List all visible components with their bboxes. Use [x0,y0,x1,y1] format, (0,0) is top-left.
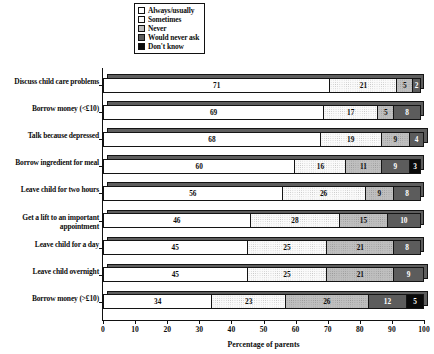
x-tick [167,320,168,324]
bar-segment-value: 23 [245,297,252,306]
x-tick-label: 30 [196,325,204,334]
legend-item-4: Don't know [138,42,199,51]
bar-segment-value: 19 [347,135,354,144]
legend-swatch-icon [138,16,145,23]
bar-segment-value: 25 [283,243,290,252]
legend-swatch-icon [138,25,145,32]
legend-swatch-icon [138,7,145,14]
bar-segment-value: 4 [415,135,419,144]
x-tick-label: 10 [131,325,139,334]
x-tick-label: 70 [324,325,332,334]
chart-legend: Always/usuallySometimesNeverWould never … [134,3,205,54]
bar-segment-0: 71 [104,79,330,92]
bar-segment-2: 26 [286,295,369,308]
legend-item-1: Sometimes [138,15,199,24]
bar-segment-3: 10 [388,214,420,227]
bar-segment-value: 9 [394,162,398,171]
x-tick [231,320,232,324]
legend-item-3: Would never ask [138,33,199,42]
bar-segment-1: 28 [251,214,340,227]
bar-segment-4: 3 [410,160,420,173]
x-tick [392,320,393,324]
bar-row: Borrow ingredient for meal60161193 [103,155,424,182]
bar-segment-value: 45 [172,270,179,279]
bar-segment-value: 3 [413,162,417,171]
bar-segment-4: 5 [407,295,423,308]
x-tick [296,320,297,324]
x-tick-label: 20 [163,325,171,334]
bar-row: Discuss child care problems712152 [103,74,424,101]
stacked-bar: 4525219 [103,267,424,282]
bar-row: Borrow money (>£10)342326125 [103,291,424,318]
bar-segment-value: 25 [283,270,290,279]
x-axis-title: Percentage of parents [103,340,424,349]
stacked-bar: 46281510 [103,213,421,228]
legend-label: Don't know [148,42,184,51]
y-axis-category-label: Discuss child care problems [0,77,99,86]
bar-row: Get a lift to an important appointment46… [103,210,424,237]
bar-segment-3: 8 [394,241,420,254]
bar-segment-2: 9 [366,187,395,200]
x-tick-label: 40 [228,325,236,334]
bar-segment-0: 45 [104,268,248,281]
bar-segment-2: 15 [340,214,388,227]
bar-segment-value: 28 [291,216,298,225]
bar-segment-2: 5 [378,106,394,119]
legend-label: Always/usually [148,6,194,15]
x-tick-label: 100 [418,325,429,334]
bar-segment-value: 60 [196,162,203,171]
stacked-bar: 4525218 [103,240,421,255]
x-tick [328,320,329,324]
bar-segment-3: 9 [382,160,411,173]
x-tick [360,320,361,324]
bar-segment-value: 71 [213,81,220,90]
x-tick [264,320,265,324]
bar-segment-value: 56 [189,189,196,198]
y-axis-category-label: Get a lift to an important appointment [0,213,99,231]
bar-segment-0: 68 [104,133,321,146]
bar-segment-0: 56 [104,187,283,200]
y-axis-category-label: Leave child for two hours [0,185,99,194]
stacked-bar: 691758 [103,105,421,120]
legend-item-0: Always/usually [138,6,199,15]
legend-label: Would never ask [148,33,199,42]
bar-segment-0: 46 [104,214,251,227]
bar-segment-value: 16 [317,162,324,171]
bar-segment-value: 5 [413,297,417,306]
bar-segment-2: 5 [397,79,413,92]
bar-segment-3: 2 [413,79,419,92]
legend-swatch-icon [138,43,145,50]
legend-item-2: Never [138,24,199,33]
bar-segment-value: 12 [384,297,391,306]
bar-segment-value: 21 [357,270,364,279]
bar-row: Borrow money (<£10)691758 [103,101,424,128]
bar-segment-0: 60 [104,160,295,173]
y-axis-category-label: Talk because depressed [0,131,99,140]
bar-row: Leave child for two hours562698 [103,182,424,209]
bar-segment-value: 15 [360,216,367,225]
bar-segment-2: 9 [382,133,411,146]
bar-segment-value: 69 [210,108,217,117]
bar-segment-value: 5 [384,108,388,117]
bar-segment-1: 26 [283,187,366,200]
x-tick [135,320,136,324]
bar-segment-value: 8 [405,189,409,198]
stacked-bar: 342326125 [103,294,424,309]
bar-segment-0: 45 [104,241,248,254]
bar-row: Leave child overnight4525219 [103,264,424,291]
bar-segment-0: 34 [104,295,212,308]
bar-segment-3: 12 [369,295,407,308]
legend-label: Never [148,24,166,33]
stacked-bar: 681994 [103,132,424,147]
bar-segment-3: 9 [394,268,423,281]
bar-segment-value: 45 [172,243,179,252]
bar-segment-2: 21 [327,241,394,254]
y-axis-category-label: Borrow money (>£10) [0,294,99,303]
bar-segment-value: 5 [403,81,407,90]
bar-segment-value: 9 [407,270,411,279]
x-tick [103,320,104,324]
bar-segment-value: 10 [400,216,407,225]
bar-segment-0: 69 [104,106,324,119]
bar-segment-1: 25 [248,268,328,281]
bar-segment-value: 8 [405,108,409,117]
